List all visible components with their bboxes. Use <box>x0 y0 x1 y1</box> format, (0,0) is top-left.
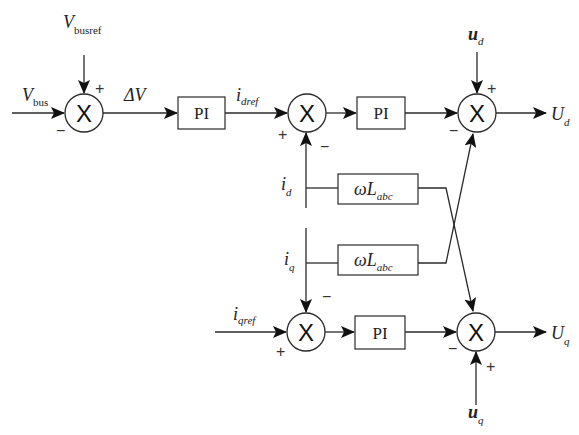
summing-junction-q-output: X <box>457 313 495 351</box>
dc-bus-voltage-current-control-diagram: X PI X PI X ωLabc ωLabc <box>0 0 579 435</box>
pi-controller-voltage: PI <box>178 97 225 129</box>
label-id: id <box>281 174 292 198</box>
pi-controller-q-axis: PI <box>355 316 405 349</box>
cross-coupling-d-to-q-wire <box>418 188 473 311</box>
svg-text:X: X <box>298 319 314 346</box>
label-iqref: iqref <box>233 304 257 326</box>
label-iq: iq <box>284 249 295 273</box>
label-ud-input: ud <box>468 24 484 47</box>
svg-text:X: X <box>76 100 92 127</box>
sign-sum1-vbusref: + <box>95 80 104 97</box>
svg-text:PI: PI <box>372 324 387 343</box>
label-delta-v: ΔV <box>123 85 148 105</box>
svg-text:PI: PI <box>373 104 388 123</box>
pi-controller-d-axis: PI <box>357 97 405 129</box>
sign-sum3-pi: − <box>449 122 458 139</box>
sign-sum3-ud: + <box>487 80 496 97</box>
sign-sum1-vbus: − <box>56 122 65 139</box>
summing-junction-voltage: X <box>65 94 103 132</box>
label-Ud-output: Ud <box>551 104 570 128</box>
svg-text:X: X <box>469 100 485 127</box>
summing-junction-d-current: X <box>288 94 326 132</box>
svg-text:X: X <box>468 319 484 346</box>
cross-coupling-q-to-d-wire <box>418 134 473 263</box>
svg-text:X: X <box>299 100 315 127</box>
omega-l-block-d: ωLabc <box>338 174 418 204</box>
label-uq-input: uq <box>468 402 484 426</box>
label-Uq-output: Uq <box>551 323 570 347</box>
sign-sum5-uq: + <box>486 358 495 375</box>
sign-sum4-iqref: + <box>276 343 285 360</box>
summing-junction-d-output: X <box>458 94 496 132</box>
summing-junction-q-current: X <box>287 313 325 351</box>
sign-sum4-iq: − <box>322 288 331 305</box>
sign-sum2-idref: + <box>278 126 287 143</box>
sign-sum2-id: − <box>320 138 329 155</box>
label-vbus: Vbus <box>22 85 48 108</box>
svg-text:PI: PI <box>194 104 209 123</box>
omega-l-block-q: ωLabc <box>338 245 418 275</box>
label-vbusref: Vbusref <box>63 12 102 36</box>
label-idref: idref <box>236 85 260 107</box>
sign-sum5-pi: − <box>448 340 457 357</box>
